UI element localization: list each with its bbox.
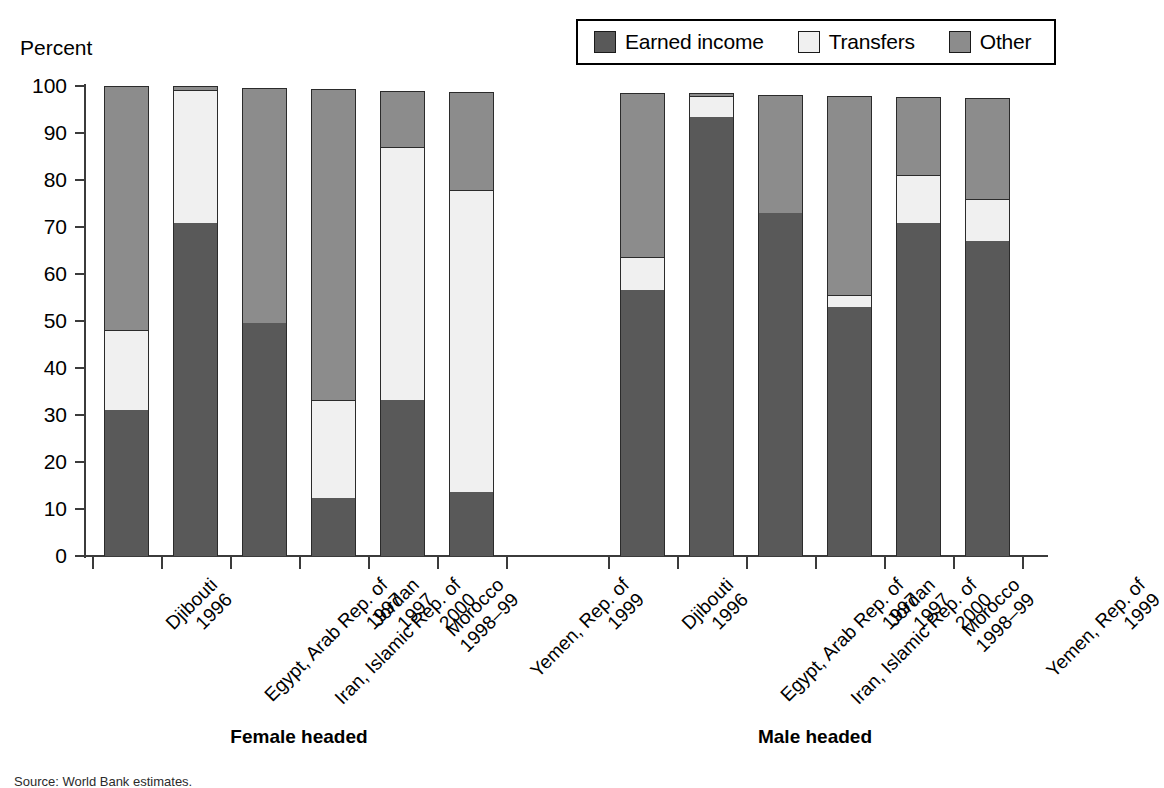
bar-segment-earned — [243, 323, 286, 556]
bar-segment-transfers — [897, 175, 940, 223]
x-tick — [884, 557, 886, 569]
legend-swatch-transfers — [798, 31, 820, 53]
y-tick-label: 50 — [44, 310, 75, 331]
y-tick-mark — [75, 414, 86, 416]
bar-segment-other — [381, 91, 424, 147]
bar-segment-earned — [966, 241, 1009, 556]
y-tick-mark — [75, 320, 86, 322]
y-tick-label: 90 — [44, 122, 75, 143]
bar-segment-earned — [450, 492, 493, 556]
x-tick — [230, 557, 232, 569]
x-tick — [161, 557, 163, 569]
legend-entry-other: Other — [949, 30, 1032, 54]
y-tick-mark — [75, 273, 86, 275]
x-tick — [677, 557, 679, 569]
bar-segment-transfers — [450, 190, 493, 491]
bar-female-headed-1 — [173, 86, 218, 556]
x-tick — [299, 557, 301, 569]
bar-male-headed-3 — [827, 96, 872, 556]
bar-segment-other — [621, 93, 664, 257]
legend-label-transfers: Transfers — [829, 30, 915, 54]
bar-segment-transfers — [621, 257, 664, 291]
bar-segment-other — [312, 89, 355, 400]
group-title-female-headed: Female headed — [230, 726, 367, 748]
y-tick-mark — [75, 461, 86, 463]
x-tick — [815, 557, 817, 569]
bar-segment-other — [450, 92, 493, 191]
y-tick-label: 20 — [44, 451, 75, 472]
y-tick-label: 60 — [44, 263, 75, 284]
bar-segment-earned — [174, 223, 217, 556]
bar-female-headed-2 — [242, 88, 287, 556]
y-tick-label: 40 — [44, 357, 75, 378]
legend-swatch-earned-income — [594, 31, 616, 53]
y-tick-mark — [75, 508, 86, 510]
plot-area — [86, 86, 1048, 556]
bar-segment-earned — [828, 307, 871, 556]
bar-female-headed-5 — [449, 92, 494, 556]
bar-segment-earned — [759, 213, 802, 556]
bar-segment-other — [759, 95, 802, 213]
bar-segment-transfers — [312, 400, 355, 497]
y-tick-mark — [75, 179, 86, 181]
bar-segment-earned — [690, 117, 733, 556]
bar-segment-earned — [897, 223, 940, 556]
bar-segment-other — [966, 98, 1009, 199]
x-tick — [608, 557, 610, 569]
bar-segment-transfers — [174, 90, 217, 223]
bar-segment-earned — [312, 498, 355, 556]
x-tick — [368, 557, 370, 569]
x-axis-label: Djibouti1996 — [162, 574, 237, 649]
y-tick-label: 10 — [44, 498, 75, 519]
bar-male-headed-1 — [689, 93, 734, 556]
bar-segment-earned — [381, 400, 424, 556]
bar-segment-earned — [105, 410, 148, 556]
bar-segment-other — [243, 88, 286, 323]
group-title-male-headed: Male headed — [758, 726, 872, 748]
y-tick-mark — [75, 226, 86, 228]
y-axis-title: Percent — [20, 36, 92, 60]
y-tick-mark — [75, 85, 86, 87]
x-tick — [1022, 557, 1024, 569]
y-tick-label: 0 — [55, 545, 75, 566]
x-axis-label: Yemen, Rep. of1999 — [526, 574, 648, 696]
y-tick-label: 100 — [32, 75, 75, 96]
bar-segment-transfers — [690, 96, 733, 117]
y-tick-mark — [75, 132, 86, 134]
bar-male-headed-4 — [896, 97, 941, 556]
bar-segment-transfers — [381, 147, 424, 400]
bar-segment-other — [828, 96, 871, 295]
x-tick — [746, 557, 748, 569]
x-axis-label: Djibouti1996 — [678, 574, 753, 649]
y-tick-label: 80 — [44, 169, 75, 190]
x-tick — [953, 557, 955, 569]
bar-male-headed-5 — [965, 98, 1010, 556]
bar-female-headed-3 — [311, 89, 356, 556]
bar-female-headed-0 — [104, 86, 149, 556]
legend-label-earned-income: Earned income — [625, 30, 764, 54]
bar-segment-transfers — [105, 330, 148, 410]
source-note: Source: World Bank estimates. — [14, 774, 192, 788]
bar-segment-transfers — [966, 199, 1009, 241]
x-axis-label: Yemen, Rep. of1999 — [1042, 574, 1164, 696]
legend-swatch-other — [949, 31, 971, 53]
chart-legend: Earned income Transfers Other — [576, 19, 1056, 65]
bar-segment-other — [897, 97, 940, 175]
legend-entry-earned-income: Earned income — [594, 30, 764, 54]
y-tick-label: 70 — [44, 216, 75, 237]
bar-segment-earned — [621, 290, 664, 556]
bar-male-headed-0 — [620, 93, 665, 556]
legend-entry-transfers: Transfers — [798, 30, 915, 54]
legend-label-other: Other — [980, 30, 1032, 54]
x-tick — [506, 557, 508, 569]
x-tick — [437, 557, 439, 569]
bar-female-headed-4 — [380, 91, 425, 556]
y-tick-label: 30 — [44, 404, 75, 425]
bar-segment-other — [105, 86, 148, 330]
y-tick-mark — [75, 555, 86, 557]
x-tick — [92, 557, 94, 569]
y-tick-mark — [75, 367, 86, 369]
bar-male-headed-2 — [758, 95, 803, 556]
bar-segment-transfers — [828, 295, 871, 307]
